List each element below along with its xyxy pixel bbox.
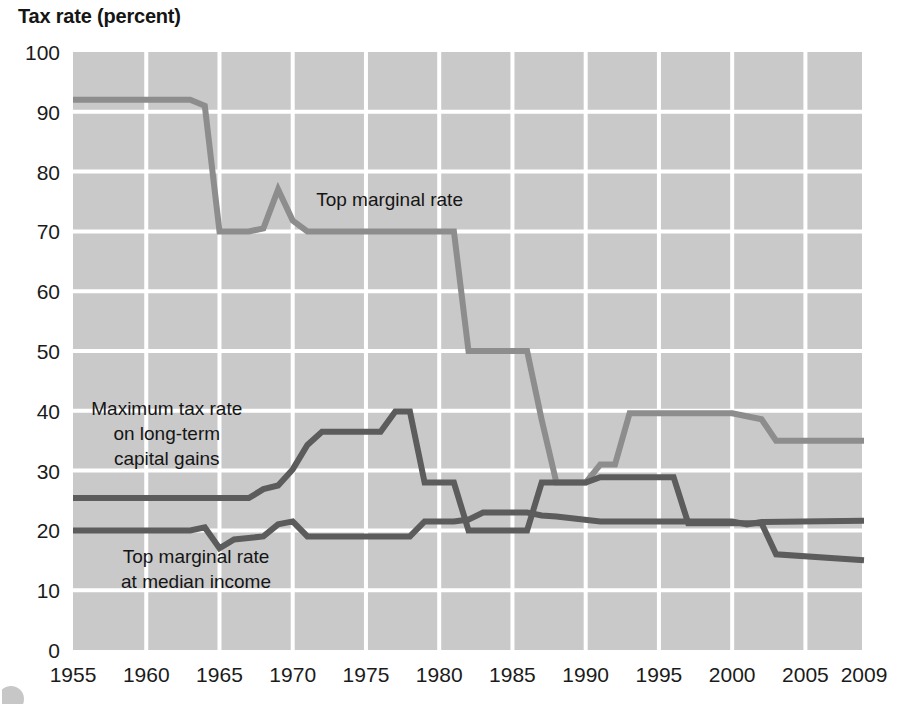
y-tick-label: 0 — [48, 639, 60, 662]
x-tick-label: 2005 — [782, 663, 829, 686]
annotation-line: Top marginal rate — [123, 546, 270, 567]
x-tick-label: 1975 — [343, 663, 390, 686]
y-tick-label: 30 — [37, 460, 60, 483]
x-axis-tick-labels: 1955196019651970197519801985199019952000… — [50, 663, 888, 686]
x-tick-label: 1970 — [269, 663, 316, 686]
chart-svg: 0102030405060708090100 19551960196519701… — [0, 0, 901, 706]
plot-area-wrapper: 0102030405060708090100 19551960196519701… — [0, 0, 901, 706]
x-tick-label: 2009 — [841, 663, 888, 686]
x-tick-label: 1960 — [123, 663, 170, 686]
y-tick-label: 50 — [37, 340, 60, 363]
x-tick-label: 1965 — [196, 663, 243, 686]
y-tick-label: 100 — [25, 41, 60, 64]
y-tick-label: 10 — [37, 579, 60, 602]
x-tick-label: 2000 — [709, 663, 756, 686]
y-tick-label: 70 — [37, 220, 60, 243]
x-tick-label: 1990 — [562, 663, 609, 686]
annotation-line: Top marginal rate — [316, 189, 463, 210]
tax-rate-chart-figure: Tax rate (percent) 010203040506070809010… — [0, 0, 901, 706]
y-tick-label: 40 — [37, 400, 60, 423]
y-tick-label: 20 — [37, 519, 60, 542]
x-tick-label: 1985 — [489, 663, 536, 686]
x-tick-label: 1955 — [50, 663, 97, 686]
top-marginal-rate-label: Top marginal rate — [316, 189, 463, 210]
x-tick-label: 1995 — [636, 663, 683, 686]
page-corner-mark — [2, 680, 36, 704]
annotation-line: capital gains — [114, 448, 220, 469]
annotation-line: at median income — [121, 571, 271, 592]
annotation-line: on long-term — [113, 423, 220, 444]
y-tick-label: 60 — [37, 280, 60, 303]
annotation-line: Maximum tax rate — [91, 398, 242, 419]
y-tick-label: 80 — [37, 161, 60, 184]
y-axis-tick-labels: 0102030405060708090100 — [25, 41, 60, 662]
x-tick-label: 1980 — [416, 663, 463, 686]
y-tick-label: 90 — [37, 101, 60, 124]
